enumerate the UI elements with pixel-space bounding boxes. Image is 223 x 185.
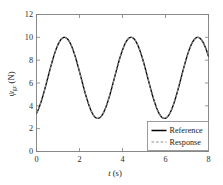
x-tick-label: 8 [206, 155, 210, 164]
line-chart: 0 2 4 6 8 10 12 0 2 4 6 8 [0, 0, 223, 185]
legend: Reference Response [148, 122, 209, 151]
legend-label-reference: Reference [170, 126, 204, 135]
x-axis-units: (s) [113, 168, 122, 178]
x-axis-symbol: t [108, 168, 111, 178]
y-axis-subscript: gc [11, 85, 17, 91]
legend-label-response: Response [170, 138, 202, 147]
y-axis-units: (N) [6, 71, 16, 83]
x-tick-label: 6 [163, 155, 167, 164]
y-tick-label: 8 [29, 56, 33, 65]
y-axis-tick-labels: 0 2 4 6 8 10 12 [25, 10, 33, 156]
y-tick-label: 12 [25, 10, 33, 19]
y-tick-label: 6 [29, 79, 33, 88]
x-tick-label: 2 [77, 155, 81, 164]
figure-container: 0 2 4 6 8 10 12 0 2 4 6 8 [0, 0, 223, 185]
x-tick-label: 4 [120, 155, 124, 164]
x-axis-title: t(s) [108, 168, 122, 178]
x-axis-tick-labels: 0 2 4 6 8 [34, 155, 210, 164]
y-tick-label: 10 [25, 33, 33, 42]
x-tick-label: 0 [34, 155, 38, 164]
y-tick-label: 0 [29, 147, 33, 156]
svg-text:ψgc(N): ψgc(N) [6, 71, 17, 96]
y-axis-title: ψgc(N) [6, 71, 17, 96]
y-tick-label: 4 [29, 102, 33, 111]
y-tick-label: 2 [29, 124, 33, 133]
svg-text:t(s): t(s) [108, 168, 122, 178]
series-line-reference [37, 37, 209, 118]
